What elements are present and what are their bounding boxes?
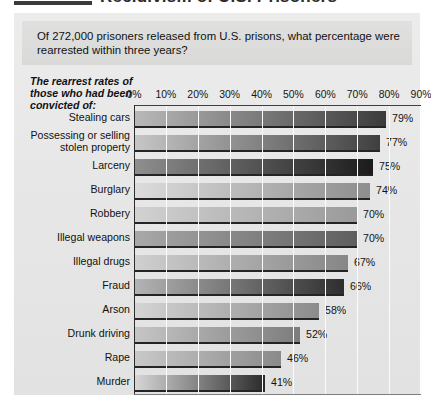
bar-underline	[134, 150, 380, 152]
category-label-line: stolen property	[30, 142, 130, 154]
gridline-30	[230, 106, 231, 394]
bar[interactable]	[134, 303, 319, 318]
bar-value-label: 79%	[392, 111, 413, 126]
bar-value-label: 41%	[271, 375, 292, 390]
question-text: Of 272,000 prisoners released from U.S. …	[37, 29, 403, 58]
x-tick-label-20: 20%	[187, 89, 208, 100]
category-label-line: Arson	[30, 304, 130, 316]
category-label-line: Illegal weapons	[30, 232, 130, 244]
category-label-column: Stealing carsPossessing or sellingstolen…	[30, 105, 130, 395]
category-label: Stealing cars	[30, 112, 130, 124]
gridline-90	[421, 106, 422, 394]
x-tick-label-50: 50%	[283, 89, 304, 100]
bar[interactable]	[134, 183, 370, 198]
gridline-10	[166, 106, 167, 394]
x-tick-label-60: 60%	[315, 89, 336, 100]
bar-row[interactable]: 41%	[134, 371, 421, 395]
x-tick-label-90: 90%	[411, 89, 431, 100]
category-label: Murder	[30, 376, 130, 388]
bar-rows: 79%77%75%74%70%70%67%66%58%52%46%41%	[134, 105, 421, 394]
bar-underline	[134, 246, 357, 248]
category-label-line: Rape	[30, 352, 130, 364]
x-tick-label-10: 10%	[155, 89, 176, 100]
category-label: Illegal weapons	[30, 232, 130, 244]
category-label: Burglary	[30, 184, 130, 196]
x-tick-label-40: 40%	[251, 89, 272, 100]
bar[interactable]	[134, 135, 380, 150]
gridline-70	[357, 106, 358, 394]
bar[interactable]	[134, 231, 357, 246]
masthead-title: Recidivism of U.S. Prisoners	[100, 0, 337, 7]
bar-row[interactable]: 77%	[134, 131, 421, 155]
bar-row[interactable]: 52%	[134, 323, 421, 347]
bar-underline	[134, 342, 300, 344]
bar-row[interactable]: 67%	[134, 251, 421, 275]
bar-value-label: 74%	[376, 183, 397, 198]
bar-underline	[134, 198, 370, 200]
bar-underline	[134, 390, 265, 392]
category-label-line: Stealing cars	[30, 112, 130, 124]
bar-value-label: 46%	[287, 351, 308, 366]
bar-row[interactable]: 70%	[134, 203, 421, 227]
category-label: Possessing or sellingstolen property	[30, 130, 130, 153]
page-masthead: Recidivism of U.S. Prisoners	[0, 0, 428, 9]
bar-underline	[134, 366, 281, 368]
bar[interactable]	[134, 111, 386, 126]
gridline-20	[198, 106, 199, 394]
bar-underline	[134, 222, 357, 224]
bar[interactable]	[134, 159, 373, 174]
x-tick-label-80: 80%	[379, 89, 400, 100]
bar-row[interactable]: 66%	[134, 275, 421, 299]
bar-value-label: 70%	[363, 207, 384, 222]
bar[interactable]	[134, 207, 357, 222]
category-label-line: Robbery	[30, 208, 130, 220]
category-label-line: Murder	[30, 376, 130, 388]
category-label: Rape	[30, 352, 130, 364]
figure-card: Of 272,000 prisoners released from U.S. …	[14, 13, 420, 395]
plot-area: 79%77%75%74%70%70%67%66%58%52%46%41%	[134, 105, 421, 395]
bar-row[interactable]: 70%	[134, 227, 421, 251]
question-banner: Of 272,000 prisoners released from U.S. …	[22, 21, 412, 65]
category-label: Robbery	[30, 208, 130, 220]
gridline-60	[325, 106, 326, 394]
category-label-line: Illegal drugs	[30, 256, 130, 268]
bar[interactable]	[134, 375, 265, 390]
bar-underline	[134, 318, 319, 320]
category-label-line: Drunk driving	[30, 328, 130, 340]
bar-row[interactable]: 58%	[134, 299, 421, 323]
category-label-line: Burglary	[30, 184, 130, 196]
bar[interactable]	[134, 351, 281, 366]
x-axis-line	[134, 394, 421, 395]
bar-value-label: 66%	[350, 279, 371, 294]
category-label: Drunk driving	[30, 328, 130, 340]
category-label: Arson	[30, 304, 130, 316]
bar-row[interactable]: 79%	[134, 107, 421, 131]
category-label: Illegal drugs	[30, 256, 130, 268]
category-label-line: Fraud	[30, 280, 130, 292]
bar-value-label: 70%	[363, 231, 384, 246]
masthead-rule	[14, 1, 92, 5]
bar-underline	[134, 174, 373, 176]
x-tick-label-70: 70%	[347, 89, 368, 100]
x-tick-label-30: 30%	[219, 89, 240, 100]
gridline-40	[262, 106, 263, 394]
bar-row[interactable]: 46%	[134, 347, 421, 371]
bar-row[interactable]: 74%	[134, 179, 421, 203]
bar-row[interactable]: 75%	[134, 155, 421, 179]
bar[interactable]	[134, 327, 300, 342]
gridline-80	[389, 106, 390, 394]
category-label: Fraud	[30, 280, 130, 292]
gridline-50	[293, 106, 294, 394]
y-axis-line	[134, 105, 135, 394]
bar-value-label: 58%	[325, 303, 346, 318]
bar-underline	[134, 126, 386, 128]
category-label-line: Larceny	[30, 160, 130, 172]
x-axis-tick-labels: 0%10%20%30%40%50%60%70%80%90%	[120, 89, 420, 103]
x-tick-label-0: 0%	[126, 89, 141, 100]
category-label: Larceny	[30, 160, 130, 172]
